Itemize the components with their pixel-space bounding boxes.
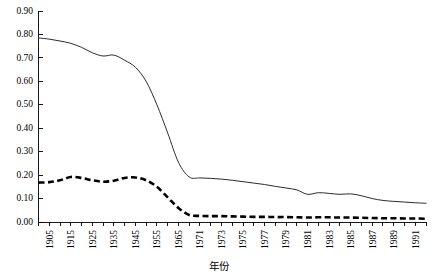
x-axis-tick-label: 1925 <box>88 230 98 249</box>
y-axis-tick-marks <box>39 11 43 222</box>
x-axis-tick-label: 1989 <box>389 230 399 249</box>
x-axis-tick-label: 1905 <box>45 230 55 249</box>
y-axis-tick-label: 0.50 <box>16 99 33 109</box>
y-axis-tick-label: 0.30 <box>16 146 33 156</box>
y-axis-tick-label: 0.90 <box>16 6 33 16</box>
y-axis-tick-labels: 0.000.100.200.300.400.500.600.700.800.90 <box>16 6 33 227</box>
x-axis-tick-label: 1945 <box>131 230 141 249</box>
series-line-solid <box>39 38 427 203</box>
y-axis-tick-label: 0.10 <box>16 193 33 203</box>
y-axis-tick-label: 0.80 <box>16 29 33 39</box>
x-axis-tick-label: 1983 <box>325 230 335 249</box>
x-axis-tick-label: 1981 <box>303 230 313 249</box>
x-axis-tick-label: 1935 <box>109 230 119 249</box>
y-axis-tick-label: 0.40 <box>16 123 33 133</box>
x-axis-tick-label: 1975 <box>238 230 248 249</box>
x-axis-tick-label: 1987 <box>368 230 378 249</box>
x-axis-tick-label: 1955 <box>152 230 162 249</box>
x-axis-tick-label: 1991 <box>411 230 421 249</box>
x-axis-tick-label: 1915 <box>66 230 76 249</box>
x-axis-tick-label: 1971 <box>195 230 205 249</box>
x-axis-tick-labels: 1905191519251935194519551965197119731975… <box>45 230 421 249</box>
y-axis-tick-label: 0.00 <box>16 217 33 227</box>
x-axis-tick-label: 1973 <box>217 230 227 249</box>
line-chart: 0.000.100.200.300.400.500.600.700.800.90… <box>0 0 438 274</box>
x-axis-title: 年份 <box>209 260 230 272</box>
chart-container: 0.000.100.200.300.400.500.600.700.800.90… <box>0 0 438 274</box>
x-axis-tick-label: 1965 <box>174 230 184 249</box>
y-axis-tick-label: 0.60 <box>16 76 33 86</box>
y-axis-tick-label: 0.70 <box>16 53 33 63</box>
y-axis-tick-label: 0.20 <box>16 170 33 180</box>
x-axis-tick-label: 1985 <box>346 230 356 249</box>
x-axis-tick-label: 1977 <box>260 230 270 249</box>
x-axis-tick-label: 1979 <box>281 230 291 249</box>
